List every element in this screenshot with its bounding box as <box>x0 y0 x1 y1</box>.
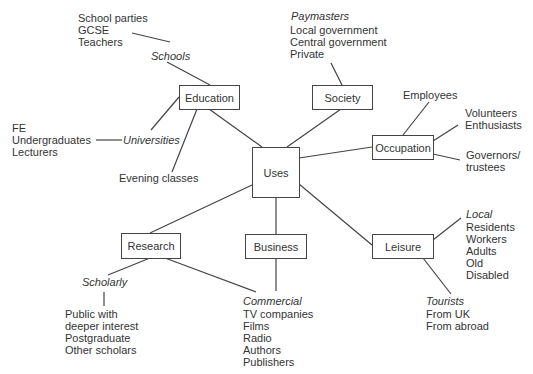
commercial-item: TV companies <box>243 308 313 320</box>
local-item: Adults <box>466 245 515 257</box>
local-items: Residents Workers Adults Old Disabled <box>466 221 515 281</box>
schools-items: School parties GCSE Teachers <box>78 12 148 48</box>
node-society-label: Society <box>324 92 360 104</box>
local-item: Disabled <box>466 269 515 281</box>
tourists-item: From UK <box>426 308 489 320</box>
universities-label: Universities <box>123 134 180 146</box>
node-uses: Uses <box>252 147 300 198</box>
node-occupation-label: Occupation <box>375 142 431 154</box>
scholarly-item: Public with <box>65 308 138 320</box>
universities-item: Undergraduates <box>12 134 91 146</box>
node-leisure: Leisure <box>372 234 434 259</box>
tourists-label: Tourists <box>426 295 464 307</box>
commercial-items: TV companies Films Radio Authors Publish… <box>243 308 313 368</box>
node-education: Education <box>179 85 240 110</box>
volunteers-item: Enthusiasts <box>465 119 522 131</box>
paymasters-items: Local government Central government Priv… <box>290 24 387 60</box>
scholarly-item: Postgraduate <box>65 332 138 344</box>
volunteers-items: Volunteers Enthusiasts <box>465 107 522 131</box>
schools-item: GCSE <box>78 24 148 36</box>
universities-items: FE Undergraduates Lecturers <box>12 122 91 158</box>
volunteers-item: Volunteers <box>465 107 522 119</box>
tourists-item: From abroad <box>426 320 489 332</box>
schools-item: Teachers <box>78 36 148 48</box>
node-occupation: Occupation <box>372 135 434 160</box>
paymasters-item: Local government <box>290 24 387 36</box>
governors-items: Governors/ trustees <box>466 149 520 173</box>
schools-label: Schools <box>151 50 190 62</box>
paymasters-label: Paymasters <box>291 10 349 22</box>
paymasters-item: Central government <box>290 36 387 48</box>
node-research: Research <box>121 233 181 259</box>
scholarly-items: Public with deeper interest Postgraduate… <box>65 308 138 356</box>
paymasters-item: Private <box>290 48 387 60</box>
commercial-item: Radio <box>243 332 313 344</box>
node-society: Society <box>312 85 373 110</box>
tourists-items: From UK From abroad <box>426 308 489 332</box>
universities-item: FE <box>12 122 91 134</box>
scholarly-label: Scholarly <box>82 276 127 288</box>
local-item: Old <box>466 257 515 269</box>
employees-label: Employees <box>403 89 457 101</box>
node-business: Business <box>245 234 307 259</box>
scholarly-item: Other scholars <box>65 344 138 356</box>
commercial-label: Commercial <box>243 295 302 307</box>
node-education-label: Education <box>185 92 234 104</box>
node-business-label: Business <box>254 241 299 253</box>
local-label: Local <box>466 208 492 220</box>
scholarly-item: deeper interest <box>65 320 138 332</box>
universities-item: Lecturers <box>12 146 91 158</box>
commercial-item: Films <box>243 320 313 332</box>
node-uses-label: Uses <box>263 167 288 179</box>
schools-item: School parties <box>78 12 148 24</box>
node-research-label: Research <box>127 240 174 252</box>
commercial-item: Authors <box>243 344 313 356</box>
governors-item: Governors/ <box>466 149 520 161</box>
node-leisure-label: Leisure <box>385 241 421 253</box>
evening-classes: Evening classes <box>119 172 199 184</box>
local-item: Workers <box>466 233 515 245</box>
uses-diagram: Uses Education Society Occupation Resear… <box>0 0 533 374</box>
governors-item: trustees <box>466 161 520 173</box>
local-item: Residents <box>466 221 515 233</box>
commercial-item: Publishers <box>243 356 313 368</box>
